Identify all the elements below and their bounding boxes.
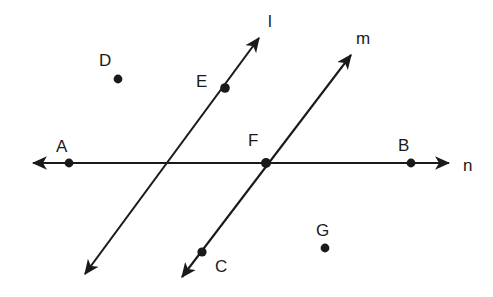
point-f-dot — [261, 158, 271, 168]
geometry-canvas: n l m A B C D E F G — [0, 0, 493, 297]
point-b-label: B — [398, 136, 410, 155]
point-e-label: E — [196, 72, 208, 91]
point-g-dot — [321, 244, 330, 253]
point-c-dot — [197, 247, 206, 256]
line-m-label: m — [356, 29, 370, 48]
point-f-label: F — [248, 131, 259, 150]
point-a-label: A — [56, 137, 68, 156]
point-b-dot — [407, 159, 416, 168]
point-g-label: G — [316, 221, 329, 240]
diagram-background — [0, 0, 493, 297]
point-d-label: D — [99, 51, 111, 70]
line-l-label: l — [268, 12, 272, 31]
point-c-label: C — [215, 257, 227, 276]
point-e-dot — [220, 83, 230, 93]
geometry-diagram: n l m A B C D E F G — [0, 0, 493, 297]
point-d-dot — [114, 75, 123, 84]
point-a-dot — [65, 159, 74, 168]
line-n-label: n — [463, 156, 473, 175]
